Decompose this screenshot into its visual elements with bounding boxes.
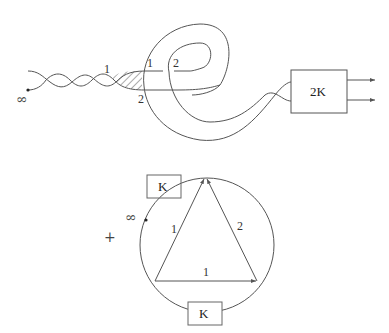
hatched-region <box>112 71 142 90</box>
strand-label-hatch-bottom: 2 <box>138 92 144 106</box>
basepoint-dot-bottom <box>144 218 147 221</box>
chord-label-left: 1 <box>171 222 177 236</box>
chord-label-right: 2 <box>237 219 243 233</box>
loop-arc-outer-lower <box>144 82 291 140</box>
strand-label-hatch-top: 1 <box>104 62 110 76</box>
infinity-label-top: ∞ <box>16 91 28 107</box>
spiral-loop <box>144 24 291 140</box>
chord-right <box>207 179 257 281</box>
box-k-top-label: K <box>158 179 168 194</box>
loop-arc-inner-lower <box>169 72 291 122</box>
chord-left <box>155 179 204 281</box>
box-k-bottom-label: K <box>199 306 209 321</box>
twisted-band <box>28 71 145 90</box>
plus-sign: + <box>104 229 116 245</box>
strand-label-loop-right: 2 <box>173 56 179 70</box>
chord-label-bottom: 1 <box>203 265 209 279</box>
diagram-canvas: ∞ 1 2 1 2 2K + ∞ 1 2 1 K K <box>0 0 389 333</box>
loop-strand-outer-b <box>145 85 220 90</box>
strand-label-loop-left: 1 <box>147 56 153 70</box>
loop-arc-outer <box>144 24 229 95</box>
infinity-label-bottom: ∞ <box>125 209 137 225</box>
box-2k-label: 2K <box>310 84 327 99</box>
